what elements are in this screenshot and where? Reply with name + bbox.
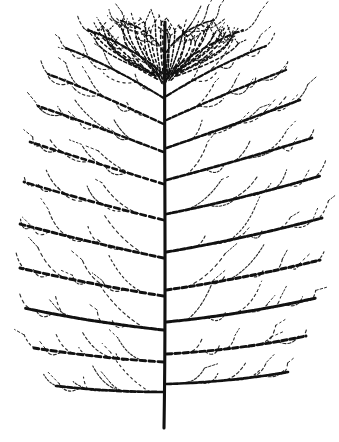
midrib-layer (164, 22, 165, 428)
figure-root: Leaf venation skeleton Black ink drawing… (0, 0, 339, 442)
background (0, 0, 339, 442)
midrib (164, 22, 165, 428)
leaf-venation-diagram: Leaf venation skeleton Black ink drawing… (0, 0, 339, 442)
